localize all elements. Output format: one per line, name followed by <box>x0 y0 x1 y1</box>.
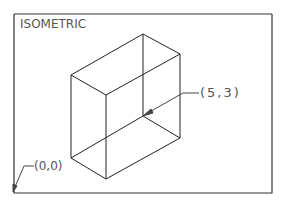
title-label: ISOMETRIC <box>20 18 86 30</box>
box-edges <box>71 34 180 179</box>
leader-origin <box>13 166 34 192</box>
point-a-label: (5,3) <box>200 87 241 99</box>
leader-point-a <box>143 93 199 116</box>
origin-label: (0,0) <box>34 160 62 172</box>
